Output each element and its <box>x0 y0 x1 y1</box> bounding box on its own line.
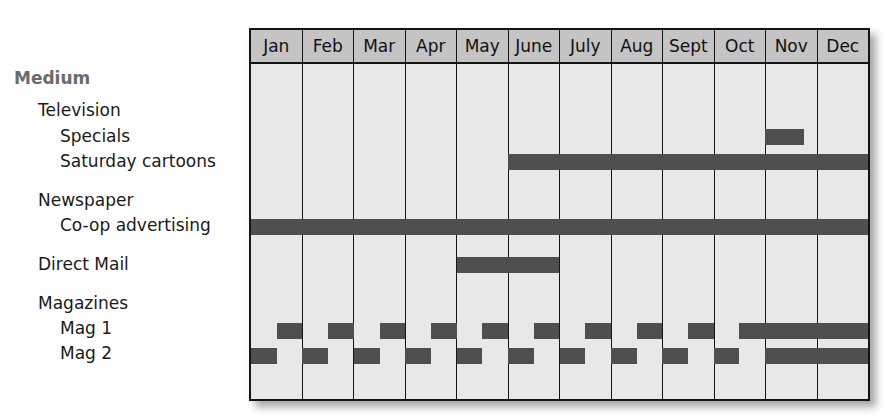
schedule-bar <box>765 129 804 145</box>
month-july: July <box>559 30 611 62</box>
schedule-bar <box>534 323 560 339</box>
month-may: May <box>456 30 508 62</box>
month-header: Jan Feb Mar Apr May June July Aug Sept O… <box>251 30 868 64</box>
label-mag-1: Mag 1 <box>60 318 112 338</box>
label-newspaper: Newspaper <box>38 190 133 210</box>
month-nov: Nov <box>765 30 817 62</box>
label-saturday-cartoons: Saturday cartoons <box>60 151 216 171</box>
schedule-bar <box>688 323 714 339</box>
schedule-bar <box>482 323 508 339</box>
label-coop-advertising: Co-op advertising <box>60 215 211 235</box>
label-mag-2: Mag 2 <box>60 343 112 363</box>
schedule-bar <box>585 323 611 339</box>
month-aug: Aug <box>611 30 663 62</box>
label-specials: Specials <box>60 126 130 146</box>
schedule-bar <box>302 348 328 364</box>
schedule-bar <box>251 219 868 235</box>
schedule-bar <box>637 323 663 339</box>
month-dec: Dec <box>817 30 869 62</box>
month-jan: Jan <box>251 30 302 62</box>
month-sept: Sept <box>662 30 714 62</box>
schedule-bar <box>611 348 637 364</box>
schedule-bar <box>328 323 354 339</box>
schedule-bar <box>714 348 740 364</box>
label-direct-mail: Direct Mail <box>38 254 129 274</box>
month-mar: Mar <box>353 30 405 62</box>
schedule-bar <box>431 323 457 339</box>
month-apr: Apr <box>405 30 457 62</box>
schedule-bar <box>380 323 406 339</box>
schedule-bar <box>277 323 303 339</box>
label-magazines: Magazines <box>38 293 128 313</box>
schedule-bar <box>457 348 483 364</box>
schedule-bar <box>354 348 380 364</box>
schedule-grid: Jan Feb Mar Apr May June July Aug Sept O… <box>249 28 870 401</box>
label-medium: Medium <box>14 68 90 88</box>
month-oct: Oct <box>714 30 766 62</box>
schedule-bar <box>662 348 688 364</box>
month-feb: Feb <box>302 30 354 62</box>
row-labels: Medium Television Specials Saturday cart… <box>0 0 245 419</box>
schedule-bar <box>251 348 277 364</box>
schedule-bar <box>457 257 560 273</box>
label-television: Television <box>38 100 121 120</box>
schedule-bar <box>508 348 534 364</box>
schedule-bar <box>508 154 868 170</box>
schedule-bar <box>739 323 868 339</box>
schedule-bar <box>405 348 431 364</box>
schedule-bar <box>765 348 868 364</box>
schedule-bar <box>560 348 586 364</box>
month-june: June <box>508 30 560 62</box>
